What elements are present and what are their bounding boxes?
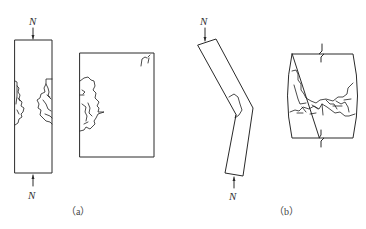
caption-b: （b）	[274, 206, 299, 217]
arrow-head	[204, 37, 207, 41]
column-buckled: N N	[198, 15, 253, 202]
panel-a: N N （a）	[15, 15, 154, 217]
crack-left-inner	[16, 86, 20, 114]
figure-canvas: N N （a） N N	[0, 0, 366, 229]
load-label-bottom: N	[27, 189, 36, 201]
closeup-outline	[288, 54, 358, 138]
break-line-bottom	[319, 130, 324, 147]
column-axial: N N	[15, 15, 52, 201]
crack-closeup-main	[292, 70, 353, 103]
load-label-bottom: N	[228, 190, 237, 202]
break-line-top	[319, 44, 324, 62]
crack-closeup-inner	[80, 90, 92, 124]
load-label-top: N	[199, 15, 208, 27]
caption-a: （a）	[66, 206, 90, 217]
panel-b: N N （b）	[198, 15, 358, 217]
crack-closeup-top	[141, 55, 150, 66]
column-outline	[15, 40, 52, 173]
arrow-head	[32, 35, 35, 39]
column-outline	[198, 39, 253, 176]
arrow-head	[233, 177, 236, 181]
closeup-outline	[80, 53, 154, 157]
crack-closeup-main	[80, 77, 104, 131]
load-label-top: N	[28, 15, 37, 27]
crack-closeup-branches	[294, 85, 351, 115]
closeup-axial	[80, 53, 154, 157]
closeup-buckled	[288, 44, 358, 147]
arrow-head	[32, 175, 35, 179]
